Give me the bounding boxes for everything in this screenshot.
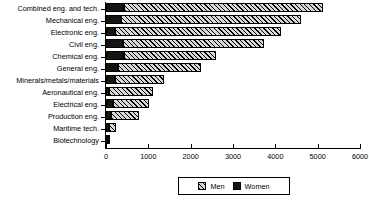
- category-label: Production eng.: [0, 111, 102, 123]
- bar-segment-men: [115, 75, 164, 84]
- bar-segment-women: [106, 99, 113, 108]
- bar-segment-men: [121, 15, 301, 24]
- bar-chart: Combined eng. and tech. Mechanical eng. …: [0, 0, 369, 200]
- category-label: Aeronautical eng.: [0, 87, 102, 99]
- bar-segment-women: [106, 3, 124, 12]
- bar-row: [106, 87, 360, 99]
- bar-segment-men: [109, 87, 153, 96]
- bar-row: [106, 111, 360, 123]
- bar-row: [106, 3, 360, 15]
- x-axis-tick: [148, 144, 149, 149]
- x-axis-tick-label: 3000: [213, 152, 253, 161]
- y-axis-tick: [101, 117, 106, 118]
- legend-label-men: Men: [210, 182, 224, 191]
- bar-segment-women: [106, 15, 121, 24]
- legend: Men Women: [178, 177, 290, 195]
- bar-segment-men: [123, 39, 264, 48]
- bar-segment-women: [106, 51, 124, 60]
- category-label: General eng.: [0, 63, 102, 75]
- bar-row: [106, 39, 360, 51]
- x-axis-tick: [233, 144, 234, 149]
- category-label: Maritime tech.: [0, 123, 102, 135]
- y-axis-tick: [101, 129, 106, 130]
- y-axis-line: [105, 2, 106, 148]
- x-axis-tick: [360, 144, 361, 149]
- y-axis-tick: [101, 33, 106, 34]
- y-axis-tick: [101, 69, 106, 70]
- category-label: Chemical eng.: [0, 51, 102, 63]
- bar-row: [106, 51, 360, 63]
- x-axis-tick: [318, 144, 319, 149]
- x-axis-tick: [191, 144, 192, 149]
- x-axis-tick-label: 2000: [171, 152, 211, 161]
- category-label: Civil eng.: [0, 39, 102, 51]
- x-axis-tick-label: 1000: [128, 152, 168, 161]
- bar-row: [106, 27, 360, 39]
- y-axis-tick: [101, 81, 106, 82]
- bar-row: [106, 123, 360, 135]
- bar-row: [106, 63, 360, 75]
- bar-row: [106, 15, 360, 27]
- legend-swatch-men-icon: [198, 182, 206, 190]
- category-label: Combined eng. and tech.: [0, 3, 102, 15]
- x-axis-tick-label: 5000: [298, 152, 338, 161]
- bar-segment-men: [115, 27, 281, 36]
- legend-swatch-women-icon: [233, 182, 241, 190]
- category-label: Biotechnology: [0, 135, 102, 147]
- bar-segment-men: [109, 123, 116, 132]
- y-axis-tick: [101, 9, 106, 10]
- category-label: Minerals/metals/materials: [0, 75, 102, 87]
- bar-segment-men: [124, 51, 216, 60]
- x-axis-tick-label: 6000: [340, 152, 369, 161]
- bar-segment-men: [118, 63, 201, 72]
- y-axis-tick: [101, 57, 106, 58]
- x-axis-tick: [275, 144, 276, 149]
- y-axis-tick: [101, 21, 106, 22]
- y-axis-tick: [101, 93, 106, 94]
- legend-label-women: Women: [245, 182, 270, 191]
- bar-segment-women: [106, 39, 123, 48]
- category-axis-labels: Combined eng. and tech. Mechanical eng. …: [0, 3, 102, 147]
- legend-item-men: Men: [198, 182, 224, 191]
- y-axis-tick: [101, 45, 106, 46]
- plot-area: [106, 3, 360, 147]
- x-axis-tick-label: 0: [86, 152, 126, 161]
- legend-item-women: Women: [233, 182, 270, 191]
- bar-segment-men: [108, 135, 110, 144]
- y-axis-tick: [101, 105, 106, 106]
- x-axis-tick: [106, 144, 107, 149]
- bar-segment-men: [124, 3, 323, 12]
- x-axis-tick-label: 4000: [255, 152, 295, 161]
- y-axis-tick: [101, 141, 106, 142]
- bar-segment-women: [106, 27, 115, 36]
- bar-segment-men: [113, 99, 149, 108]
- bar-segment-women: [106, 75, 115, 84]
- bar-segment-women: [106, 63, 118, 72]
- bar-segment-men: [111, 111, 139, 120]
- category-label: Electronic eng.: [0, 27, 102, 39]
- category-label: Mechanical eng.: [0, 15, 102, 27]
- bar-row: [106, 75, 360, 87]
- bar-row: [106, 99, 360, 111]
- category-label: Electrical eng.: [0, 99, 102, 111]
